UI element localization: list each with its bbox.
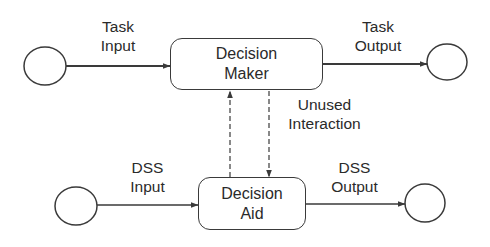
decision-aid-label-line2: Aid: [240, 204, 263, 224]
unused-interaction-label-line2: Interaction: [277, 114, 372, 133]
unused-interaction-label: Unused Interaction: [277, 95, 372, 133]
dss-input-label-line2: Input: [120, 177, 175, 196]
task-output-label-line2: Output: [343, 36, 413, 55]
task-output-label: Task Output: [343, 17, 413, 55]
dss-output-label-line1: DSS: [322, 158, 387, 177]
decision-maker-node: Decision Maker: [170, 38, 323, 90]
dss-output-label-line2: Output: [322, 177, 387, 196]
decision-maker-label-line2: Maker: [224, 64, 268, 84]
task-input-source-circle: [24, 47, 66, 85]
unused-interaction-label-line1: Unused: [277, 95, 372, 114]
dss-output-sink-circle: [405, 184, 445, 222]
dss-output-label: DSS Output: [322, 158, 387, 196]
decision-aid-node: Decision Aid: [198, 177, 306, 230]
task-input-label-line1: Task: [88, 17, 148, 36]
task-input-label: Task Input: [88, 17, 148, 55]
task-input-label-line2: Input: [88, 36, 148, 55]
task-output-label-line1: Task: [343, 17, 413, 36]
decision-aid-label-line1: Decision: [221, 184, 282, 204]
dss-input-label: DSS Input: [120, 158, 175, 196]
dss-input-source-circle: [55, 187, 97, 225]
dss-input-label-line1: DSS: [120, 158, 175, 177]
decision-maker-label-line1: Decision: [216, 44, 277, 64]
task-output-sink-circle: [427, 44, 467, 80]
